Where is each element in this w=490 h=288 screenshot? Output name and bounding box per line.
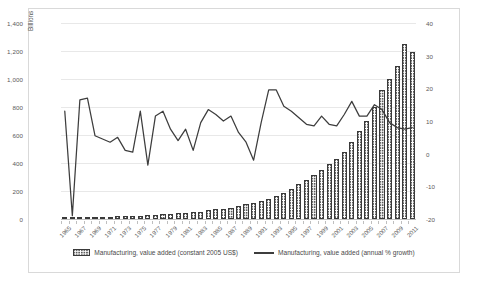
y-axis-left-tick: 1,400 [7, 20, 23, 27]
x-axis-tick [250, 221, 251, 224]
x-axis-tick [189, 221, 190, 224]
x-axis-tick [325, 221, 326, 224]
x-axis-tick [363, 221, 364, 224]
y-axis-left-tick: 600 [12, 132, 23, 139]
y-axis-right-tick: 10 [426, 118, 433, 125]
x-axis-tick [393, 221, 394, 224]
x-axis-label: 1997 [300, 225, 314, 239]
bar-swatch-icon [73, 249, 90, 256]
y-axis-right-tick: 40 [426, 20, 433, 27]
x-axis-tick [280, 221, 281, 224]
x-axis-tick [340, 221, 341, 224]
x-axis-tick [318, 221, 319, 224]
x-axis-tick [265, 221, 266, 224]
x-axis-tick [303, 221, 304, 224]
x-axis-tick [401, 221, 402, 224]
y-axis-right-tick: 30 [426, 52, 433, 59]
x-axis-label: 1989 [240, 225, 254, 239]
x-axis-tick [182, 221, 183, 224]
x-axis-tick [91, 221, 92, 224]
legend-item-value-added[interactable]: Manufacturing, value added (constant 200… [73, 249, 238, 256]
x-axis-tick [129, 221, 130, 224]
x-axis-label: 1991 [255, 225, 269, 239]
plot-area [61, 23, 416, 219]
x-axis-tick [310, 221, 311, 224]
x-axis-label: 2011 [406, 225, 419, 238]
x-axis-tick [235, 221, 236, 224]
y-axis-left-tick: 1,200 [7, 48, 23, 55]
x-axis-label: 1973 [119, 225, 133, 239]
x-axis-tick [174, 221, 175, 224]
x-axis-label: 1979 [164, 225, 178, 239]
x-axis-label: 1993 [270, 225, 284, 239]
x-axis-tick [167, 221, 168, 224]
y-axis-left-tick: 1,000 [7, 76, 23, 83]
y-axis-left-tick: 200 [12, 188, 23, 195]
x-axis-label: 1975 [134, 225, 148, 239]
x-axis-tick [257, 221, 258, 224]
legend-item-label: Manufacturing, value added (constant 200… [94, 249, 238, 256]
x-axis-tick [84, 221, 85, 224]
y-axis-right-tick: 20 [426, 85, 433, 92]
x-axis-tick [114, 221, 115, 224]
x-axis-label: 2003 [345, 225, 359, 239]
line-swatch-icon [254, 252, 274, 254]
x-axis-tick [121, 221, 122, 224]
x-axis-tick [99, 221, 100, 224]
x-axis-tick [371, 221, 372, 224]
x-axis-tick [378, 221, 379, 224]
x-axis-tick [242, 221, 243, 224]
x-axis-label: 1971 [104, 225, 118, 239]
x-axis-tick [76, 221, 77, 224]
y-axis-right-tick: -10 [426, 183, 435, 190]
x-axis-tick [144, 221, 145, 224]
x-axis-tick [212, 221, 213, 224]
x-axis-tick [356, 221, 357, 224]
x-axis-tick [220, 221, 221, 224]
legend-item-label: Manufacturing, value added (annual % gro… [278, 249, 415, 256]
x-axis-tick [106, 221, 107, 224]
x-axis-tick [333, 221, 334, 224]
growth-line-path [65, 90, 412, 216]
y-axis-right-tick: 0 [426, 150, 429, 157]
y-axis-left-title: Billions [27, 11, 34, 31]
y-axis-left-tick: 800 [12, 104, 23, 111]
x-axis-tick [272, 221, 273, 224]
x-axis-tick [386, 221, 387, 224]
x-axis-line [61, 219, 416, 220]
x-axis-tick [288, 221, 289, 224]
x-axis-tick [227, 221, 228, 224]
x-axis-label: 1969 [89, 225, 103, 239]
chart-frame: Billions 1,4001,2001,0008006004002000 40… [28, 8, 460, 273]
x-axis-label: 1977 [149, 225, 163, 239]
x-axis-label: 1995 [285, 225, 299, 239]
x-axis-tick [295, 221, 296, 224]
y-axis-left-tick: 400 [12, 160, 23, 167]
x-axis-tick [159, 221, 160, 224]
x-axis-tick [197, 221, 198, 224]
line-series [61, 23, 416, 219]
x-axis-label: 2005 [360, 225, 374, 239]
x-axis-tick [348, 221, 349, 224]
x-axis-label: 2007 [376, 225, 390, 239]
x-axis-tick [137, 221, 138, 224]
x-axis-label: 1999 [315, 225, 329, 239]
x-axis-tick [61, 221, 62, 224]
x-axis-tick [152, 221, 153, 224]
y-axis-left-tick: 0 [19, 216, 23, 223]
y-axis-left: 1,4001,2001,0008006004002000 [0, 23, 26, 219]
x-axis-label: 1965 [58, 225, 72, 239]
x-axis-tick [205, 221, 206, 224]
x-axis-label: 1967 [73, 225, 87, 239]
x-axis-label: 2009 [391, 225, 405, 239]
x-axis-label: 2001 [330, 225, 344, 239]
x-axis-tick [69, 221, 70, 224]
x-axis-label: 1985 [209, 225, 223, 239]
y-axis-right: 403020100-10-20 [418, 23, 448, 219]
y-axis-right-tick: -20 [426, 216, 435, 223]
x-axis-label: 1987 [224, 225, 238, 239]
x-axis-tick [408, 221, 409, 224]
x-axis-label: 1983 [194, 225, 208, 239]
legend-item-growth[interactable]: Manufacturing, value added (annual % gro… [254, 249, 415, 256]
x-axis-label: 1981 [179, 225, 193, 239]
